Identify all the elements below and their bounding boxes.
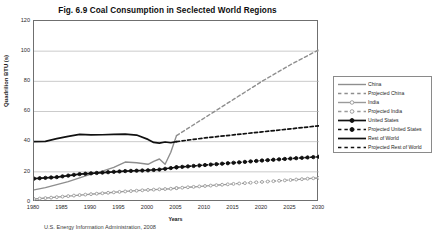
series-line-5 <box>177 126 320 142</box>
series-line-1 <box>177 50 320 136</box>
legend-label: Projected China <box>367 89 404 98</box>
y-tick-0: 0 <box>4 198 30 204</box>
x-tick-2010: 2010 <box>189 204 219 210</box>
legend-swatch-icon <box>337 107 367 116</box>
legend-item-1[interactable]: Projected China <box>337 89 429 98</box>
x-tick-1985: 1985 <box>47 204 77 210</box>
legend-swatch-icon <box>337 89 367 98</box>
legend-label: Projected United States <box>367 125 422 134</box>
x-tick-1995: 1995 <box>104 204 134 210</box>
legend-item-2[interactable]: India <box>337 98 429 107</box>
x-tick-2000: 2000 <box>132 204 162 210</box>
chart-legend: ChinaProjected ChinaIndiaProjected India… <box>333 76 432 153</box>
legend-swatch-icon <box>337 98 367 107</box>
plot-area <box>33 20 318 201</box>
legend-label: India <box>367 98 379 107</box>
source-note: U.S. Energy Information Administration, … <box>44 224 156 230</box>
legend-item-5[interactable]: Projected United States <box>337 125 429 134</box>
legend-swatch-icon <box>337 125 367 134</box>
x-tick-2030: 2030 <box>303 204 333 210</box>
legend-item-4[interactable]: United States <box>337 116 429 125</box>
legend-item-3[interactable]: Projected India <box>337 107 429 116</box>
y-tick-40: 40 <box>4 137 30 143</box>
y-axis-label: Quadrilion BTU (s) <box>3 29 9 133</box>
x-tick-1980: 1980 <box>18 204 48 210</box>
legend-item-7[interactable]: Projected Rest of World <box>337 143 429 152</box>
y-tick-120: 120 <box>4 17 30 23</box>
legend-label: Rest of World <box>367 134 399 143</box>
legend-swatch-icon <box>337 80 367 89</box>
y-tick-20: 20 <box>4 168 30 174</box>
legend-item-0[interactable]: China <box>337 80 429 89</box>
plot-svg <box>34 21 319 202</box>
x-tick-2015: 2015 <box>218 204 248 210</box>
x-tick-1990: 1990 <box>75 204 105 210</box>
legend-label: United States <box>367 116 399 125</box>
legend-swatch-icon <box>337 116 367 125</box>
legend-label: Projected India <box>367 107 402 116</box>
legend-item-6[interactable]: Rest of World <box>337 134 429 143</box>
chart-title: Fig. 6.9 Coal Consumption in Seclected W… <box>0 6 335 15</box>
series-line-0 <box>34 136 177 190</box>
x-tick-2025: 2025 <box>275 204 305 210</box>
figure-coal-consumption: Fig. 6.9 Coal Consumption in Seclected W… <box>0 0 435 241</box>
x-tick-2020: 2020 <box>246 204 276 210</box>
legend-swatch-icon <box>337 143 367 152</box>
legend-swatch-icon <box>337 134 367 143</box>
x-axis-label: Years <box>33 216 318 222</box>
legend-label: Projected Rest of World <box>367 143 422 152</box>
x-tick-2005: 2005 <box>161 204 191 210</box>
legend-label: China <box>367 80 381 89</box>
